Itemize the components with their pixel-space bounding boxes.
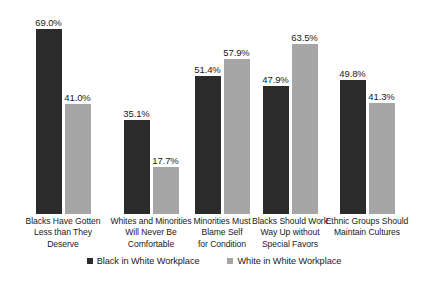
bar-item[interactable]: 41.3% (369, 0, 395, 214)
bar-rect[interactable] (369, 103, 395, 214)
category-label-line: Deserve (15, 239, 111, 250)
category-label-line: Ethnic Groups Should (319, 216, 415, 227)
bar-item[interactable]: 47.9% (263, 0, 289, 214)
bar-item[interactable]: 35.1% (124, 0, 150, 214)
bar-value-label: 47.9% (262, 74, 288, 85)
category-label: Blacks Have GottenLess than TheyDeserve (15, 216, 111, 250)
category-label-line: Maintain Cultures (319, 227, 415, 238)
bar-group: 47.9%63.5% (247, 0, 333, 214)
bar-rect[interactable] (124, 120, 150, 214)
category-label-line: Special Favors (242, 239, 338, 250)
bar-rect[interactable] (36, 29, 62, 214)
legend-label: Black in White Workplace (97, 256, 200, 266)
bar-value-label: 35.1% (123, 108, 149, 119)
bar-item[interactable]: 41.0% (65, 0, 91, 214)
bar-item[interactable]: 63.5% (292, 0, 318, 214)
bar-group-bars: 69.0%41.0% (20, 0, 106, 214)
bar-group: 49.8%41.3% (324, 0, 410, 214)
bar-item[interactable]: 17.7% (153, 0, 179, 214)
bar-value-label: 41.3% (368, 91, 394, 102)
legend-item[interactable]: Black in White Workplace (87, 256, 200, 266)
bar-rect[interactable] (292, 44, 318, 214)
bar-rect[interactable] (224, 59, 250, 214)
bar-value-label: 63.5% (291, 32, 317, 43)
bar-item[interactable]: 57.9% (224, 0, 250, 214)
bar-value-label: 49.8% (339, 68, 365, 79)
category-axis: Blacks Have GottenLess than TheyDeserveW… (0, 216, 428, 256)
plot-area: 69.0%41.0%35.1%17.7%51.4%57.9%47.9%63.5%… (0, 0, 428, 214)
bar-chart: 69.0%41.0%35.1%17.7%51.4%57.9%47.9%63.5%… (0, 0, 428, 283)
bar-item[interactable]: 51.4% (195, 0, 221, 214)
bar-item[interactable]: 49.8% (340, 0, 366, 214)
bar-value-label: 51.4% (194, 64, 220, 75)
bar-rect[interactable] (195, 76, 221, 214)
legend-label: White in White Workplace (237, 256, 341, 266)
bar-item[interactable]: 69.0% (36, 0, 62, 214)
bar-rect[interactable] (340, 80, 366, 214)
legend-swatch-icon (227, 258, 233, 264)
legend-item[interactable]: White in White Workplace (227, 256, 341, 266)
category-label-line: Less than They (15, 227, 111, 238)
bar-rect[interactable] (153, 167, 179, 214)
bar-rect[interactable] (65, 104, 91, 214)
chart-legend: Black in White WorkplaceWhite in White W… (0, 256, 428, 266)
bar-rect[interactable] (263, 86, 289, 214)
bar-group-bars: 47.9%63.5% (247, 0, 333, 214)
bar-value-label: 41.0% (64, 92, 90, 103)
bar-value-label: 69.0% (35, 17, 61, 28)
bar-value-label: 17.7% (152, 155, 178, 166)
bar-value-label: 57.9% (223, 47, 249, 58)
bar-group: 69.0%41.0% (20, 0, 106, 214)
category-label: Ethnic Groups ShouldMaintain Cultures (319, 216, 415, 239)
category-label-line: Blacks Have Gotten (15, 216, 111, 227)
bar-group-bars: 49.8%41.3% (324, 0, 410, 214)
legend-swatch-icon (87, 258, 93, 264)
